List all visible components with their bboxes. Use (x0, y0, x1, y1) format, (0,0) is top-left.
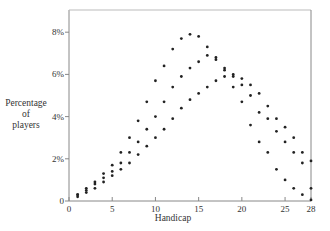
data-point (197, 60, 200, 63)
data-point (240, 84, 243, 87)
data-point (266, 151, 269, 154)
data-point (137, 119, 140, 122)
data-point (215, 58, 218, 61)
y-axis-title-line: of (22, 109, 31, 119)
data-point (215, 79, 218, 82)
data-point (145, 128, 148, 131)
data-point (171, 48, 174, 51)
data-point (292, 187, 295, 190)
data-point (102, 181, 105, 184)
data-point (189, 67, 192, 70)
data-point (266, 117, 269, 120)
y-tick-label: 2% (52, 154, 65, 164)
y-axis-title-line: Percentage (5, 98, 47, 108)
x-tick-label: 15 (194, 204, 204, 214)
data-point (119, 151, 122, 154)
data-point (249, 124, 252, 127)
data-point (111, 174, 114, 177)
data-point (163, 65, 166, 68)
data-point (258, 111, 261, 114)
data-point (154, 136, 157, 139)
data-point (258, 141, 261, 144)
data-point (197, 92, 200, 95)
data-point (171, 86, 174, 89)
data-point (189, 33, 192, 36)
y-tick-label: 0 (60, 196, 65, 206)
data-point (223, 67, 226, 70)
data-point (189, 98, 192, 101)
data-point (111, 164, 114, 167)
data-point (310, 160, 313, 163)
data-point (197, 35, 200, 38)
data-point (275, 130, 278, 133)
y-tick-label: 6% (52, 69, 65, 79)
y-tick-label: 8% (52, 27, 65, 37)
data-point (284, 141, 287, 144)
data-point (249, 84, 252, 87)
data-point (180, 37, 183, 40)
data-point (102, 176, 105, 179)
data-point (128, 151, 131, 154)
data-point (240, 77, 243, 80)
y-tick-label: 4% (52, 112, 65, 122)
data-point (206, 54, 209, 57)
data-point (94, 187, 97, 190)
data-point (154, 79, 157, 82)
data-point (94, 183, 97, 186)
data-point (232, 73, 235, 76)
y-axis-title-line: players (12, 120, 40, 130)
data-point (102, 172, 105, 175)
data-point (119, 168, 122, 171)
data-point (206, 46, 209, 49)
y-axis-ticks: 02%4%6%8% (52, 27, 69, 206)
plot-frame (69, 10, 311, 201)
x-axis-title: Handicap (155, 213, 192, 223)
y-axis-title: Percentageofplayers (5, 98, 47, 130)
data-point (171, 117, 174, 120)
data-point (249, 94, 252, 97)
data-point (275, 117, 278, 120)
data-points (76, 33, 312, 201)
x-axis-ticks: 051015202528 (67, 197, 316, 214)
data-point (232, 86, 235, 89)
data-point (266, 105, 269, 108)
data-point (180, 107, 183, 110)
data-point (258, 92, 261, 95)
data-point (137, 153, 140, 156)
data-point (301, 193, 304, 196)
data-point (292, 151, 295, 154)
data-point (284, 126, 287, 129)
data-point (154, 115, 157, 118)
data-point (240, 100, 243, 103)
data-point (111, 170, 114, 173)
data-point (145, 145, 148, 148)
data-point (275, 168, 278, 171)
data-point (206, 86, 209, 89)
x-tick-label: 0 (67, 204, 72, 214)
data-point (137, 141, 140, 144)
x-tick-label: 28 (307, 204, 317, 214)
data-point (301, 162, 304, 165)
data-point (163, 100, 166, 103)
data-point (310, 187, 313, 190)
data-point (119, 162, 122, 165)
x-tick-label: 20 (237, 204, 247, 214)
data-point (180, 75, 183, 78)
data-point (128, 162, 131, 165)
data-point (284, 179, 287, 182)
data-point (223, 75, 226, 78)
data-point (85, 191, 88, 194)
data-point (310, 199, 313, 202)
data-point (145, 100, 148, 103)
data-point (128, 136, 131, 139)
data-point (292, 136, 295, 139)
data-point (163, 128, 166, 131)
scatter-chart: 051015202528 02%4%6%8% Handicap Percenta… (0, 0, 330, 231)
data-point (301, 151, 304, 154)
data-point (76, 195, 79, 198)
x-tick-label: 5 (110, 204, 115, 214)
x-tick-label: 25 (281, 204, 291, 214)
